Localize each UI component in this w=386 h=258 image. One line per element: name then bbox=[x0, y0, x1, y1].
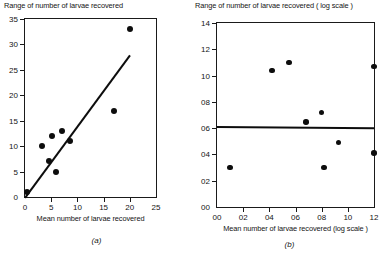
panel-b-y-tick-label: 10 bbox=[201, 71, 210, 80]
figure-root: Range of number of larvae recovered Mean… bbox=[0, 0, 386, 258]
panel-b-x-tick bbox=[348, 207, 349, 212]
panel-b-x-tick-label: 04 bbox=[265, 213, 274, 222]
panel-a-y-tick bbox=[20, 19, 25, 20]
panel-b-data-point bbox=[321, 165, 327, 171]
panel-b-y-tick-label: 06 bbox=[201, 124, 210, 133]
panel-b: Range of number of larvae recovered ( lo… bbox=[193, 0, 386, 258]
panel-a-data-point bbox=[53, 169, 59, 175]
panel-b-data-point bbox=[227, 165, 233, 171]
panel-a-x-tick bbox=[77, 197, 78, 202]
panel-a: Range of number of larvae recovered Mean… bbox=[0, 0, 193, 258]
panel-a-data-point bbox=[67, 138, 73, 144]
panel-a-data-point bbox=[49, 133, 55, 139]
panel-b-y-tick bbox=[212, 181, 217, 182]
panel-a-caption: (a) bbox=[92, 236, 102, 245]
panel-a-y-tick-label: 5 bbox=[14, 167, 18, 176]
panel-b-regression-line bbox=[217, 126, 374, 129]
panel-b-y-tick bbox=[212, 128, 217, 129]
panel-a-y-tick-label: 35 bbox=[9, 15, 18, 24]
panel-a-y-tick bbox=[20, 44, 25, 45]
panel-a-data-point bbox=[39, 143, 45, 149]
panel-a-y-tick bbox=[20, 121, 25, 122]
panel-a-y-tick bbox=[20, 146, 25, 147]
panel-a-y-axis-title: Range of number of larvae recovered bbox=[4, 1, 123, 10]
panel-a-y-tick-label: 10 bbox=[9, 142, 18, 151]
panel-b-y-tick-label: 12 bbox=[201, 45, 210, 54]
panel-b-y-tick bbox=[212, 49, 217, 50]
panel-b-x-tick-label: 06 bbox=[291, 213, 300, 222]
panel-a-data-point bbox=[59, 128, 65, 134]
panel-b-y-tick bbox=[212, 23, 217, 24]
panel-a-y-tick-label: 0 bbox=[14, 193, 18, 202]
panel-a-plot-area: Mean number of larvae recovered 05101520… bbox=[24, 18, 157, 198]
panel-a-x-tick-label: 25 bbox=[152, 203, 161, 212]
panel-a-y-tick bbox=[20, 172, 25, 173]
panel-a-data-point bbox=[127, 26, 133, 32]
panel-b-data-point bbox=[269, 68, 275, 74]
panel-b-x-tick-label: 10 bbox=[343, 213, 352, 222]
panel-b-x-tick-label: 00 bbox=[213, 213, 222, 222]
panel-b-y-tick bbox=[212, 154, 217, 155]
panel-a-y-tick-label: 30 bbox=[9, 40, 18, 49]
panel-b-y-tick-label: 08 bbox=[201, 97, 210, 106]
panel-b-x-tick-label: 12 bbox=[370, 213, 379, 222]
panel-a-x-tick bbox=[104, 197, 105, 202]
panel-a-x-tick-label: 5 bbox=[49, 203, 53, 212]
panel-a-data-point bbox=[46, 158, 52, 164]
panel-b-x-tick bbox=[322, 207, 323, 212]
panel-b-plot-area: Mean number of larvae recovered (log sca… bbox=[216, 22, 375, 208]
panel-b-x-tick-label: 02 bbox=[239, 213, 248, 222]
panel-b-x-tick-label: 08 bbox=[317, 213, 326, 222]
panel-b-y-tick bbox=[212, 76, 217, 77]
panel-a-y-tick-label: 20 bbox=[9, 91, 18, 100]
panel-b-y-tick bbox=[212, 102, 217, 103]
panel-a-y-tick-label: 15 bbox=[9, 116, 18, 125]
panel-a-data-point bbox=[111, 108, 117, 114]
panel-b-x-tick bbox=[269, 207, 270, 212]
panel-b-data-point bbox=[371, 150, 377, 156]
panel-b-caption: (b) bbox=[285, 240, 295, 249]
panel-a-y-tick bbox=[20, 70, 25, 71]
panel-b-y-tick-label: 00 bbox=[201, 203, 210, 212]
panel-b-y-tick-label: 02 bbox=[201, 176, 210, 185]
panel-a-data-point bbox=[24, 189, 30, 195]
panel-a-y-tick bbox=[20, 95, 25, 96]
panel-a-x-tick-label: 20 bbox=[125, 203, 134, 212]
panel-b-data-point bbox=[319, 110, 325, 116]
panel-a-x-tick bbox=[130, 197, 131, 202]
panel-a-y-tick-label: 25 bbox=[9, 65, 18, 74]
panel-b-data-point bbox=[336, 140, 342, 146]
panel-a-x-axis-title: Mean number of larvae recovered bbox=[37, 214, 145, 223]
panel-b-x-axis-title: Mean number of larvae recovered (log sca… bbox=[223, 224, 368, 233]
panel-a-x-tick bbox=[51, 197, 52, 202]
panel-b-y-tick-label: 04 bbox=[201, 150, 210, 159]
panel-a-x-tick-label: 0 bbox=[23, 203, 27, 212]
panel-a-x-tick-label: 15 bbox=[99, 203, 108, 212]
panel-b-x-tick bbox=[243, 207, 244, 212]
panel-b-y-tick-label: 14 bbox=[201, 19, 210, 28]
panel-b-x-tick bbox=[296, 207, 297, 212]
panel-b-data-point bbox=[303, 119, 309, 125]
panel-b-data-point bbox=[286, 60, 292, 66]
panel-b-y-axis-title: Range of number of larvae recovered ( lo… bbox=[195, 1, 353, 10]
panel-b-data-point bbox=[371, 64, 377, 70]
panel-a-x-tick-label: 10 bbox=[73, 203, 82, 212]
panel-a-regression-line bbox=[24, 55, 130, 198]
